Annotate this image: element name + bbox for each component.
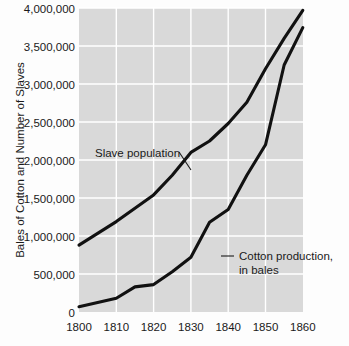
slave-population-label: Slave population bbox=[95, 147, 180, 159]
y-tick-2000000: 2,000,000 bbox=[24, 155, 75, 167]
y-tick-1000000: 1,000,000 bbox=[24, 231, 75, 243]
y-tick-2500000: 2,500,000 bbox=[24, 117, 75, 129]
y-tick-1500000: 1,500,000 bbox=[24, 193, 75, 205]
x-axis-tick-labels: 1800 1810 1820 1830 1840 1850 1860 bbox=[66, 321, 315, 333]
cotton-production-label-line1: Cotton production, bbox=[239, 250, 333, 262]
x-tick-1860: 1860 bbox=[290, 321, 316, 333]
x-tick-1850: 1850 bbox=[253, 321, 279, 333]
x-tick-1840: 1840 bbox=[215, 321, 241, 333]
y-tick-4000000: 4,000,000 bbox=[24, 3, 75, 15]
chart-page: 4,000,000 3,500,000 3,000,000 2,500,000 … bbox=[0, 0, 349, 346]
y-tick-3500000: 3,500,000 bbox=[24, 41, 75, 53]
x-tick-1800: 1800 bbox=[66, 321, 92, 333]
y-tick-3000000: 3,000,000 bbox=[24, 79, 75, 91]
line-chart: 4,000,000 3,500,000 3,000,000 2,500,000 … bbox=[0, 0, 349, 346]
y-axis-title: Bales of Cotton and Number of Slaves bbox=[14, 62, 26, 258]
y-tick-500000: 500,000 bbox=[33, 269, 75, 281]
x-tick-1810: 1810 bbox=[104, 321, 130, 333]
y-tick-0: 0 bbox=[69, 307, 75, 319]
x-tick-1820: 1820 bbox=[141, 321, 167, 333]
x-tick-1830: 1830 bbox=[178, 321, 204, 333]
cotton-production-label-line2: in bales bbox=[239, 264, 279, 276]
